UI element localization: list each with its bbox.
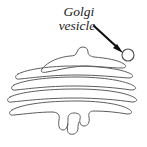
callout-label-line2: vesicle bbox=[59, 18, 96, 33]
callout-label: Golgi vesicle bbox=[59, 4, 96, 33]
cisterna-bottom-tubule bbox=[67, 122, 79, 134]
golgi-stack bbox=[8, 47, 137, 134]
cisterna-4 bbox=[8, 89, 137, 102]
callout-arrow bbox=[94, 26, 123, 53]
cisterna-3 bbox=[12, 77, 136, 90]
cisterna-5-bottom bbox=[10, 101, 132, 130]
golgi-figure: Golgi vesicle bbox=[0, 0, 147, 147]
golgi-diagram-canvas: Golgi vesicle bbox=[0, 0, 147, 147]
callout-label-line1: Golgi bbox=[64, 4, 95, 19]
golgi-vesicle bbox=[122, 49, 134, 61]
arrow-shaft bbox=[94, 26, 119, 49]
